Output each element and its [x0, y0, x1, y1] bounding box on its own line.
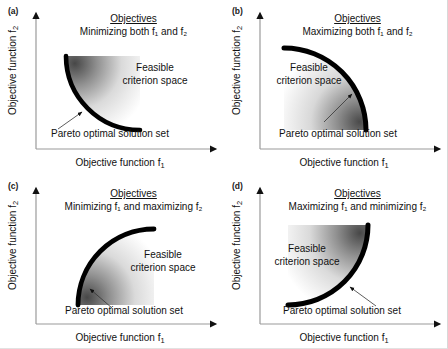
x-axis-label-sub-d: 1 [384, 336, 388, 345]
pareto-label-d: Pareto optimal solution set [252, 305, 432, 316]
panel-b: (b) [224, 0, 448, 174]
objectives-block-a: Objectives Minimizing both f₁ and f₂ [46, 12, 221, 38]
x-axis-label-b: Objective function f1 [244, 157, 444, 170]
x-axis-label-sub-c: 1 [160, 336, 164, 345]
feasible-line2-c: criterion space [130, 262, 195, 273]
pareto-label-a: Pareto optimal solution set [20, 128, 200, 139]
objectives-block-b: Objectives Maximizing both f₁ and f₂ [270, 12, 445, 38]
objectives-title-b: Objectives [334, 13, 381, 24]
feasible-line1-c: Feasible [144, 249, 182, 260]
panel-c: (c) [0, 175, 224, 349]
y-axis-label-text-b: Objective function f [231, 30, 242, 115]
y-axis-label-a: Objective function f2 [7, 6, 20, 136]
x-axis-label-sub-b: 1 [384, 161, 388, 170]
feasible-label-b: Feasible criterion space [264, 62, 354, 87]
x-axis-label-c: Objective function f1 [20, 332, 220, 345]
objectives-block-c: Objectives Minimizing f₁ and maximizing … [46, 187, 221, 213]
x-axis-label-text-d: Objective function f [299, 332, 384, 343]
y-axis-label-b: Objective function f2 [231, 6, 244, 136]
feasible-line2-a: criterion space [122, 75, 187, 86]
y-axis-label-text-a: Objective function f [7, 30, 18, 115]
y-axis-label-sub-d: 2 [235, 201, 244, 205]
feasible-line2-b: criterion space [276, 75, 341, 86]
feasible-line1-d: Feasible [288, 243, 326, 254]
x-axis-label-d: Objective function f1 [244, 332, 444, 345]
y-axis-label-sub-a: 2 [11, 26, 20, 30]
y-axis-label-text-c: Objective function f [7, 205, 18, 290]
objectives-desc-c: Minimizing f₁ and maximizing f₂ [46, 200, 221, 213]
objectives-block-d: Objectives Maximizing f₁ and minimizing … [270, 187, 445, 213]
x-axis-label-text-c: Objective function f [75, 332, 160, 343]
objectives-title-a: Objectives [110, 13, 157, 24]
feasible-label-d: Feasible criterion space [262, 243, 352, 268]
feasible-label-c: Feasible criterion space [118, 249, 208, 274]
x-axis-label-sub-a: 1 [160, 161, 164, 170]
x-axis-label-a: Objective function f1 [20, 157, 220, 170]
feasible-line2-d: criterion space [274, 256, 339, 267]
pareto-label-c: Pareto optimal solution set [34, 305, 214, 316]
objectives-desc-a: Minimizing both f₁ and f₂ [46, 25, 221, 38]
x-axis-label-text-b: Objective function f [299, 157, 384, 168]
pareto-label-b: Pareto optimal solution set [248, 128, 428, 139]
panel-d: (d) [224, 175, 448, 349]
feasible-line1-a: Feasible [136, 62, 174, 73]
figure-canvas: (a) [0, 0, 448, 349]
feasible-line1-b: Feasible [290, 62, 328, 73]
y-axis-label-c: Objective function f2 [7, 181, 20, 311]
pareto-leader-a [58, 112, 82, 129]
y-axis-label-text-d: Objective function f [231, 205, 242, 290]
x-axis-label-text-a: Objective function f [75, 157, 160, 168]
feasible-label-a: Feasible criterion space [110, 62, 200, 87]
y-axis-label-d: Objective function f2 [231, 181, 244, 311]
objectives-desc-d: Maximizing f₁ and minimizing f₂ [270, 200, 445, 213]
objectives-title-d: Objectives [334, 188, 381, 199]
pareto-leader-d [350, 287, 376, 306]
y-axis-label-sub-c: 2 [11, 201, 20, 205]
y-axis-label-sub-b: 2 [235, 26, 244, 30]
objectives-title-c: Objectives [110, 188, 157, 199]
panel-a: (a) [0, 0, 224, 174]
objectives-desc-b: Maximizing both f₁ and f₂ [270, 25, 445, 38]
